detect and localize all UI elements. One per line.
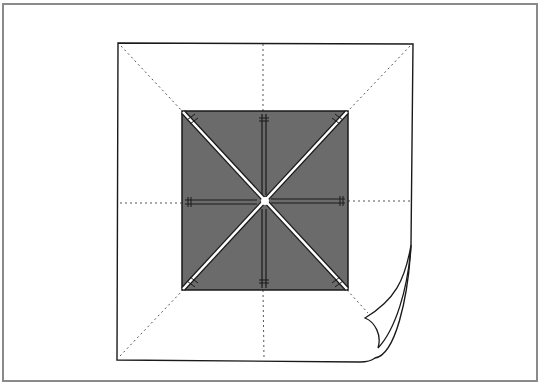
quilt-diagram <box>0 0 545 388</box>
